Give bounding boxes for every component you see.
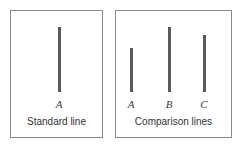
standard-line-a	[58, 27, 61, 92]
comparison-line-label-c: C	[194, 99, 214, 110]
comparison-line-label-a: A	[121, 99, 141, 110]
comparison-panel-caption: Comparison lines	[115, 116, 232, 128]
standard-line-label-a: A	[49, 99, 69, 110]
comparison-line-a	[130, 48, 133, 92]
comparison-line-c	[203, 35, 206, 92]
comparison-line-b	[168, 27, 171, 92]
line-judgment-figure: A Standard line A B C Comparison lines	[0, 0, 240, 148]
comparison-line-label-b: B	[159, 99, 179, 110]
standard-panel-caption: Standard line	[0, 116, 113, 128]
